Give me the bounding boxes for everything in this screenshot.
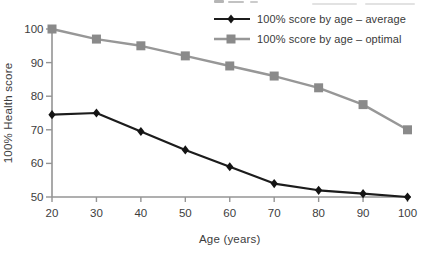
diamond-marker	[48, 110, 55, 119]
square-marker	[48, 25, 57, 34]
diamond-marker	[182, 145, 189, 154]
y-tick-label: 70	[31, 124, 44, 136]
x-axis-label: Age (years)	[199, 233, 261, 245]
square-marker	[181, 51, 190, 60]
diamond-marker	[93, 108, 100, 117]
y-tick-label: 100	[24, 23, 43, 35]
chart-legend: 100% score by age – average 100% score b…	[214, 10, 406, 48]
series-line-average	[52, 113, 408, 197]
square-marker	[227, 35, 236, 44]
x-tick-label: 50	[179, 207, 192, 219]
x-tick-label: 60	[223, 207, 236, 219]
square-marker	[270, 72, 279, 81]
square-marker	[359, 100, 368, 109]
x-tick-label: 90	[357, 207, 370, 219]
legend-label-average: 100% score by age – average	[257, 13, 406, 25]
x-tick-label: 40	[134, 207, 147, 219]
chart-figure: 50607080901002030405060708090100Age (yea…	[0, 0, 425, 256]
square-marker	[92, 35, 101, 44]
y-axis-label: 100% Health score	[2, 63, 14, 164]
y-tick-label: 80	[31, 90, 44, 102]
x-tick-label: 20	[46, 207, 59, 219]
legend-label-optimal: 100% score by age – optimal	[257, 33, 402, 45]
diamond-marker	[227, 14, 234, 23]
diamond-marker	[226, 162, 233, 171]
legend-marker-average-diamond-icon	[214, 13, 252, 25]
legend-item-average: 100% score by age – average	[214, 10, 406, 28]
y-tick-label: 60	[31, 157, 44, 169]
diamond-marker	[404, 192, 411, 201]
square-marker	[136, 41, 145, 50]
x-tick-label: 80	[312, 207, 325, 219]
square-marker	[225, 61, 234, 70]
square-marker	[403, 125, 412, 134]
legend-marker-optimal-square-icon	[214, 33, 252, 45]
diamond-marker	[137, 127, 144, 136]
x-tick-label: 100	[398, 207, 417, 219]
diamond-marker	[315, 186, 322, 195]
x-tick-label: 70	[268, 207, 281, 219]
legend-item-optimal: 100% score by age – optimal	[214, 30, 406, 48]
y-tick-label: 50	[31, 191, 44, 203]
y-tick-label: 90	[31, 57, 44, 69]
square-marker	[314, 83, 323, 92]
x-tick-label: 30	[90, 207, 103, 219]
diamond-marker	[271, 179, 278, 188]
